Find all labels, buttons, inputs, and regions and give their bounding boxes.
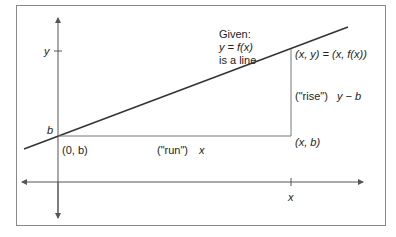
- corner-point-label: (x, b): [295, 136, 320, 148]
- intercept-label: b: [47, 124, 53, 136]
- given-note: is a line: [219, 54, 256, 67]
- y-tick-label: y: [44, 45, 50, 57]
- function-line: [24, 27, 348, 149]
- diagram-canvas: [0, 0, 396, 237]
- given-equation: y = f(x): [219, 41, 256, 54]
- origin-point-label: (0, b): [62, 144, 88, 156]
- frame-border: [17, 6, 386, 226]
- given-block: Given: y = f(x) is a line: [219, 28, 256, 67]
- x-tick-label: x: [288, 191, 294, 203]
- run-value: x: [199, 144, 205, 156]
- rise-label: ("rise"): [295, 90, 328, 102]
- run-label: ("run"): [157, 144, 188, 156]
- given-label: Given:: [219, 28, 256, 41]
- point-label: (x, y) = (x, f(x)): [295, 48, 367, 60]
- rise-value: y − b: [337, 90, 361, 102]
